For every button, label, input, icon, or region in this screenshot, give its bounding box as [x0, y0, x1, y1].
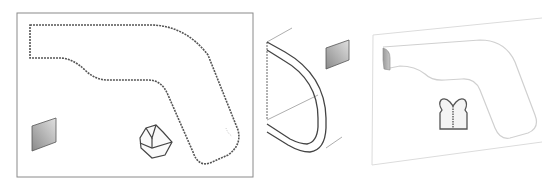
panel-isometric-profile: [267, 28, 349, 152]
vest-icon: [440, 99, 467, 129]
panel-frame: [17, 13, 253, 177]
panel-faded-view: [372, 18, 542, 165]
gray-square-icon: [326, 40, 349, 69]
diagram-canvas: [0, 0, 542, 188]
gray-tab-icon: [383, 48, 390, 70]
panel-flat-view: [17, 13, 253, 177]
